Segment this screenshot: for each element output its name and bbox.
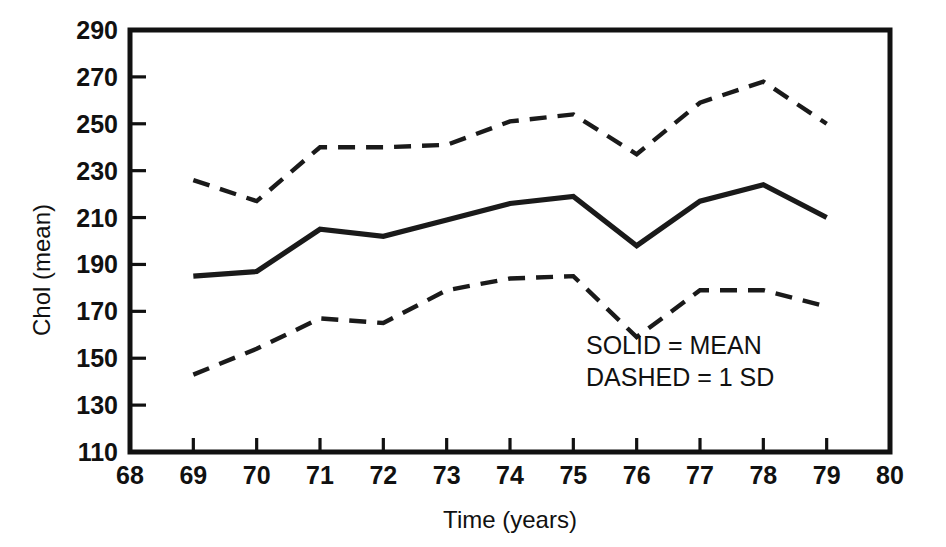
chart-canvas: 68697071727374757677787980 1101301501701…: [0, 0, 946, 547]
x-tick-label-68: 68: [116, 461, 144, 489]
y-tick-label-170: 170: [76, 297, 118, 325]
x-tick-label-74: 74: [496, 461, 524, 489]
y-axis-tick-labels: 110130150170190210230250270290: [76, 16, 118, 466]
x-axis-title: Time (years): [443, 506, 577, 533]
y-axis-title: Chol (mean): [28, 204, 55, 336]
x-tick-label-77: 77: [686, 461, 714, 489]
y-tick-label-130: 130: [76, 391, 118, 419]
series-line-mean: [193, 185, 826, 276]
y-tick-label-230: 230: [76, 157, 118, 185]
series-line-mean-1-sd: [193, 276, 826, 374]
y-tick-label-190: 190: [76, 250, 118, 278]
y-tick-label-110: 110: [78, 438, 118, 466]
x-tick-label-71: 71: [306, 461, 334, 489]
y-tick-label-210: 210: [76, 204, 118, 232]
y-tick-label-250: 250: [76, 110, 118, 138]
x-tick-label-79: 79: [813, 461, 841, 489]
x-axis-tick-labels: 68697071727374757677787980: [116, 461, 904, 489]
x-tick-label-73: 73: [433, 461, 461, 489]
x-tick-label-72: 72: [369, 461, 397, 489]
y-tick-label-150: 150: [76, 344, 118, 372]
x-tick-label-78: 78: [749, 461, 777, 489]
x-tick-label-75: 75: [559, 461, 587, 489]
x-tick-label-69: 69: [179, 461, 207, 489]
legend-annotations: SOLID = MEANDASHED = 1 SD: [586, 331, 774, 392]
y-tick-label-270: 270: [76, 63, 118, 91]
axis-frame: [130, 30, 890, 452]
legend-line-1: SOLID = MEAN: [586, 331, 762, 359]
x-tick-label-76: 76: [623, 461, 651, 489]
legend-line-2: DASHED = 1 SD: [586, 363, 774, 391]
y-tick-label-290: 290: [76, 16, 118, 44]
plot-border: [130, 30, 890, 452]
series-line-mean-1-sd: [193, 82, 826, 202]
x-tick-label-70: 70: [243, 461, 271, 489]
chart-figure: 68697071727374757677787980 1101301501701…: [0, 0, 946, 547]
x-tick-label-80: 80: [876, 461, 904, 489]
